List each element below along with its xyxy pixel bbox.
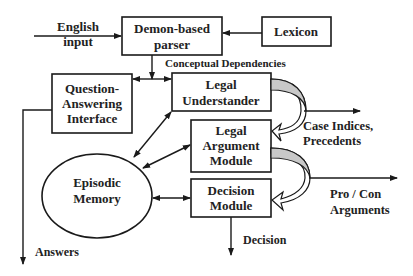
lexicon-node: Lexicon — [262, 17, 331, 46]
decision-label-1: Decision — [208, 183, 256, 198]
argument-label-1: Legal — [215, 123, 246, 138]
understander-to-argument-curved-arrow — [271, 79, 306, 141]
qa-interface-node: Question- Answering Interface — [52, 74, 132, 133]
english-input-label-1: English — [57, 19, 100, 34]
case-indices-label-1: Case Indices, — [303, 119, 373, 133]
argument-label-2: Argument — [202, 138, 260, 153]
lexicon-label: Lexicon — [274, 24, 319, 39]
understander-label-1: Legal — [205, 77, 236, 92]
argument-to-decision-curved-arrow — [271, 148, 310, 210]
understander-memory-arrow — [134, 112, 171, 157]
legal-understander-node: Legal Understander — [172, 73, 271, 111]
argument-label-3: Module — [210, 153, 253, 168]
memory-label-1: Episodic — [73, 175, 121, 190]
case-indices-label-2: Precedents — [303, 134, 361, 148]
pro-con-label-1: Pro / Con — [330, 187, 381, 201]
english-input-label-2: input — [63, 34, 93, 49]
qa-label-1: Question- — [65, 81, 119, 96]
conceptual-dependencies-label: Conceptual Dependencies — [165, 57, 286, 69]
parser-node: Demon-based parser — [122, 17, 222, 55]
architecture-diagram: English input Demon-based parser Lexicon… — [0, 0, 413, 276]
parser-label-2: parser — [154, 37, 190, 52]
legal-argument-node: Legal Argument Module — [191, 120, 271, 172]
understander-label-2: Understander — [182, 93, 260, 108]
parser-label-1: Demon-based — [134, 21, 211, 36]
episodic-memory-node: Episodic Memory — [42, 154, 152, 238]
decision-label-2: Module — [210, 198, 253, 213]
decision-output-label: Decision — [243, 233, 287, 247]
decision-module-node: Decision Module — [191, 179, 271, 217]
argument-memory-arrow — [143, 145, 190, 168]
english-input-arrow: English input — [34, 19, 121, 49]
pro-con-label-2: Arguments — [330, 203, 390, 217]
qa-label-2: Answering — [62, 96, 122, 111]
diagram-canvas: English input Demon-based parser Lexicon… — [0, 0, 413, 276]
qa-label-3: Interface — [67, 111, 118, 126]
memory-label-2: Memory — [73, 191, 121, 206]
answers-label: Answers — [35, 245, 79, 259]
